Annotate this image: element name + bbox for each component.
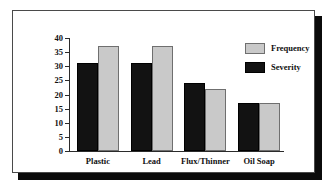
bar-frequency-plastic bbox=[98, 46, 119, 151]
figure-frame: 0510152025303540 PlasticLeadFlux/Thinner… bbox=[12, 10, 315, 173]
y-tick-label: 10 bbox=[55, 119, 64, 128]
y-tick-mark bbox=[65, 151, 70, 152]
legend-item-severity: Severity bbox=[245, 60, 310, 75]
bar-frequency-flux-thinner bbox=[205, 89, 226, 151]
y-tick-mark bbox=[65, 66, 70, 67]
y-tick-mark bbox=[65, 80, 70, 81]
x-category-label: Plastic bbox=[86, 157, 110, 166]
y-tick-label: 15 bbox=[55, 104, 64, 113]
y-tick-label: 30 bbox=[55, 62, 64, 71]
bar-frequency-oil-soap bbox=[259, 103, 280, 151]
y-tick-mark bbox=[65, 123, 70, 124]
chart-legend: FrequencySeverity bbox=[245, 41, 310, 79]
legend-swatch-severity bbox=[245, 62, 265, 73]
bar-severity-lead bbox=[131, 63, 152, 151]
y-tick-label: 40 bbox=[55, 34, 64, 43]
bar-frequency-lead bbox=[152, 46, 173, 151]
legend-label: Frequency bbox=[271, 44, 310, 53]
legend-item-frequency: Frequency bbox=[245, 41, 310, 56]
chart-figure: 0510152025303540 PlasticLeadFlux/Thinner… bbox=[0, 0, 334, 193]
bar-severity-flux-thinner bbox=[184, 83, 205, 151]
y-tick-label: 25 bbox=[55, 76, 64, 85]
y-tick-mark bbox=[65, 52, 70, 53]
x-category-label: Oil Soap bbox=[243, 157, 274, 166]
legend-swatch-frequency bbox=[245, 43, 265, 54]
x-axis-line bbox=[69, 151, 284, 152]
y-tick-label: 35 bbox=[55, 48, 64, 57]
y-tick-label: 5 bbox=[59, 133, 63, 142]
bar-severity-oil-soap bbox=[238, 103, 259, 151]
y-tick-mark bbox=[65, 109, 70, 110]
bar-severity-plastic bbox=[77, 63, 98, 151]
y-tick-label: 20 bbox=[55, 90, 64, 99]
y-tick-mark bbox=[65, 38, 70, 39]
y-tick-label: 0 bbox=[59, 147, 63, 156]
y-tick-mark bbox=[65, 95, 70, 96]
legend-label: Severity bbox=[271, 63, 301, 72]
x-category-label: Lead bbox=[142, 157, 160, 166]
x-category-label: Flux/Thinner bbox=[181, 157, 230, 166]
y-tick-mark bbox=[65, 137, 70, 138]
